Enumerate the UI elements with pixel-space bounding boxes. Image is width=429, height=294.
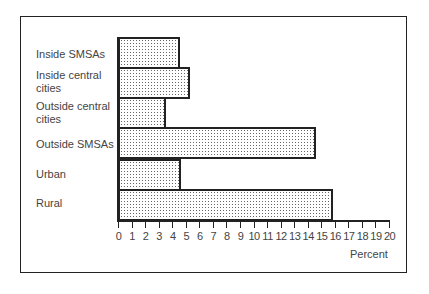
x-tick-label: 17 xyxy=(343,230,354,242)
x-tick xyxy=(213,220,214,228)
x-tick xyxy=(145,220,146,228)
bar-inside-smsas xyxy=(118,37,180,69)
x-tick xyxy=(321,220,322,228)
x-tick xyxy=(294,220,295,228)
category-label-rural: Rural xyxy=(36,197,62,210)
category-label-urban: Urban xyxy=(36,168,66,181)
x-tick-label: 12 xyxy=(275,230,286,242)
x-tick-label: 13 xyxy=(289,230,300,242)
x-tick-label: 4 xyxy=(170,230,176,242)
x-tick-label: 16 xyxy=(330,230,341,242)
bar-inside-central-cities xyxy=(118,67,190,99)
label-line: Outside SMSAs xyxy=(36,138,114,151)
x-tick xyxy=(362,220,363,228)
bar-rural xyxy=(118,189,333,221)
category-label-inside-central-cities: Inside central cities xyxy=(36,69,101,95)
category-label-outside-central-cities: Outside central cities xyxy=(36,100,110,126)
y-axis-line xyxy=(117,37,119,222)
x-tick xyxy=(172,220,173,228)
x-tick-label: 14 xyxy=(303,230,314,242)
label-line: Urban xyxy=(36,168,66,181)
x-axis-label: Percent xyxy=(350,248,388,260)
category-label-outside-smsas: Outside SMSAs xyxy=(36,138,114,151)
x-tick-label: 9 xyxy=(238,230,244,242)
label-line: cities xyxy=(36,113,110,126)
x-tick-label: 7 xyxy=(211,230,217,242)
x-tick-label: 5 xyxy=(183,230,189,242)
x-tick xyxy=(335,220,336,228)
x-tick-label: 1 xyxy=(129,230,135,242)
label-line: Outside central xyxy=(36,100,110,113)
label-line: Inside SMSAs xyxy=(36,48,105,61)
x-tick xyxy=(186,220,187,228)
x-tick xyxy=(159,220,160,228)
x-tick xyxy=(267,220,268,228)
x-tick xyxy=(389,220,390,228)
x-tick-label: 10 xyxy=(248,230,259,242)
x-tick-label: 15 xyxy=(316,230,327,242)
x-tick-label: 19 xyxy=(370,230,381,242)
x-tick-label: 2 xyxy=(143,230,149,242)
x-tick xyxy=(375,220,376,228)
x-tick xyxy=(254,220,255,228)
x-tick xyxy=(132,220,133,228)
bar-outside-smsas xyxy=(118,127,316,159)
x-tick-label: 18 xyxy=(357,230,368,242)
label-line: Rural xyxy=(36,197,62,210)
x-tick xyxy=(240,220,241,228)
x-tick-label: 20 xyxy=(384,230,395,242)
label-line: Inside central xyxy=(36,69,101,82)
x-tick-label: 8 xyxy=(224,230,230,242)
x-tick xyxy=(199,220,200,228)
x-tick-label: 6 xyxy=(197,230,203,242)
bar-outside-central-cities xyxy=(118,97,166,129)
x-tick xyxy=(348,220,349,228)
x-tick xyxy=(281,220,282,228)
x-tick-label: 0 xyxy=(116,230,122,242)
x-tick xyxy=(226,220,227,228)
x-tick-label: 3 xyxy=(156,230,162,242)
label-line: cities xyxy=(36,82,101,95)
category-label-inside-smsas: Inside SMSAs xyxy=(36,48,105,61)
x-tick xyxy=(118,220,119,228)
x-tick xyxy=(308,220,309,228)
x-tick-label: 11 xyxy=(262,230,272,242)
bar-urban xyxy=(118,159,181,191)
